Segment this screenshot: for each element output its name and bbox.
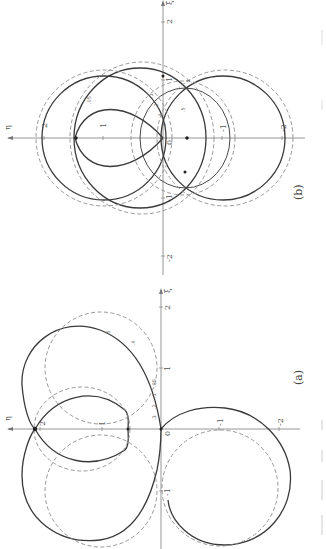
xi-tick-m1-a: -1 <box>163 488 172 496</box>
curve-label-b-one: 1 <box>185 79 191 82</box>
curve-label-b-5: .5 <box>180 107 186 112</box>
curve-label-a-4: .4 <box>130 340 136 345</box>
curve-label-b-05: .05 <box>86 96 92 104</box>
curve-label-a-5: .5 <box>105 330 111 335</box>
curve-label-b-1: .1 <box>148 93 154 98</box>
eta-tick-m1-b: -1 <box>219 124 228 132</box>
panel-a: η 2 1 0 -1 -2 ξ 2 1 -1 .05 .1 .2 .3 .4 .… <box>3 288 305 549</box>
solid-inner-upper-a <box>35 396 128 429</box>
dashed-circle-right-a <box>162 430 278 546</box>
origin-label-a: 0 <box>163 431 172 436</box>
xi-label-a: ξ <box>163 288 172 293</box>
curve-label-b-4: .4 <box>161 123 167 128</box>
eta-arrow-icon-b <box>7 136 13 140</box>
eta-tick-m1-a: -1 <box>216 418 225 426</box>
curve-label-a-2: .2 <box>151 404 157 409</box>
panel-label-b: (b) <box>292 184 305 200</box>
eta-label-a: η <box>3 416 12 421</box>
eta-tick-2-b: 2 <box>40 123 49 128</box>
eta-arrow-icon-a <box>7 427 13 431</box>
dashed-circle-lower-a <box>45 435 157 547</box>
figure-canvas: η 2 1 0 -1 -2 ξ 2 1 -1 -2 .05 .1 .2 .3 .… <box>0 0 326 549</box>
eta-tick-1-b: 1 <box>99 123 108 128</box>
solid-inner-lower-a <box>35 429 128 462</box>
curve-label-a-1: .1 <box>151 393 157 398</box>
panel-label-a: (a) <box>292 370 305 385</box>
eta-tick-1-a: 1 <box>98 421 107 426</box>
xi-tick-1-a: 1 <box>163 366 172 371</box>
xi-label-b: ξ <box>165 0 174 5</box>
curve-label-b-2: .2 <box>153 103 159 108</box>
xi-tick-2-b: 2 <box>165 19 174 24</box>
solid-right-loop-a <box>161 407 291 545</box>
solid-outer-loop-a <box>22 326 161 541</box>
panel-b: η 2 1 0 -1 -2 ξ 2 1 -1 -2 .05 .1 .2 .3 .… <box>3 0 305 275</box>
curve-label-a-3: .3 <box>151 415 157 420</box>
eta-label-b: η <box>3 125 12 130</box>
curve-label-a-05: .05 <box>151 379 157 387</box>
xi-tick-2-a: 2 <box>163 305 172 310</box>
xi-tick-m2-b: -2 <box>165 254 174 262</box>
eta-tick-m2-a: -2 <box>276 418 285 426</box>
curve-label-b-3: .3 <box>157 113 163 118</box>
